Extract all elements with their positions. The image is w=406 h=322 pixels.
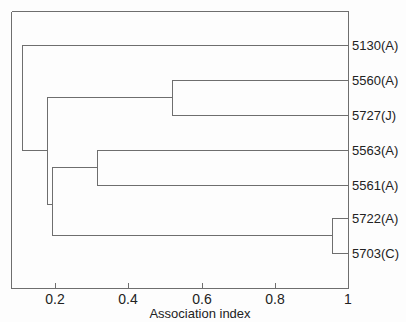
tick-label-0.8: 0.8 xyxy=(265,291,285,307)
tick-label-1: 1 xyxy=(344,291,352,307)
leaf-label-5727: 5727(J) xyxy=(352,108,396,123)
dendrogram-figure: 5130(A) 5560(A) 5727(J) 5563(A) 5561(A) … xyxy=(0,0,406,322)
branch-node-5560-5727 xyxy=(173,81,349,116)
leaf-label-5703: 5703(C) xyxy=(352,246,399,261)
dendrogram-plot: 5130(A) 5560(A) 5727(J) 5563(A) 5561(A) … xyxy=(0,0,406,322)
axis-tick-labels: 0.2 0.4 0.6 0.8 1 xyxy=(45,291,352,307)
tick-label-0.2: 0.2 xyxy=(45,291,65,307)
dendrogram-tree xyxy=(23,46,349,254)
branch-node-c xyxy=(53,168,333,236)
leaf-label-5722: 5722(A) xyxy=(352,211,398,226)
axis-ticks xyxy=(56,283,349,289)
leaf-labels: 5130(A) 5560(A) 5727(J) 5563(A) 5561(A) … xyxy=(352,38,399,261)
leaf-label-5130: 5130(A) xyxy=(352,38,398,53)
tick-label-0.6: 0.6 xyxy=(192,291,212,307)
leaf-label-5560: 5560(A) xyxy=(352,73,398,88)
tick-label-0.4: 0.4 xyxy=(118,291,138,307)
branch-node-5563-5561 xyxy=(98,151,349,186)
leaf-label-5563: 5563(A) xyxy=(352,143,398,158)
leaf-label-5561: 5561(A) xyxy=(352,178,398,193)
x-axis-title: Association index xyxy=(149,306,251,321)
branch-node-5722-5703 xyxy=(333,219,349,254)
